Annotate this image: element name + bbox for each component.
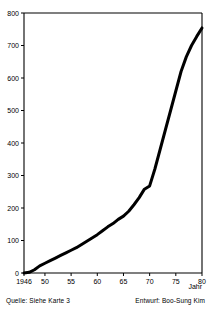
credit-note: Entwurf: Boo-Sung Kim: [135, 297, 205, 304]
y-tick-label: 300: [7, 172, 19, 179]
x-axis-title: Jahr: [188, 283, 202, 290]
y-tick-label: 600: [7, 75, 19, 82]
x-tick-label: 75: [172, 278, 180, 285]
y-tick-label: 500: [7, 107, 19, 114]
x-tick-label: 55: [67, 278, 75, 285]
y-tick-label: 400: [7, 140, 19, 147]
y-tick-label: 200: [7, 205, 19, 212]
y-tick-label: 700: [7, 42, 19, 49]
x-tick-label: 1946: [16, 278, 32, 285]
source-note: Quelle: Siehe Karte 3: [6, 297, 70, 304]
y-axis-tick-labels: 0100200300400500600700800: [7, 10, 19, 277]
x-tick-label: 65: [120, 278, 128, 285]
x-tick-label: 60: [93, 278, 101, 285]
chart-figure: 0100200300400500600700800 19465055606570…: [0, 0, 211, 311]
x-tick-label: 70: [146, 278, 154, 285]
axis-lines: [24, 13, 202, 273]
x-tick-label: 50: [41, 278, 49, 285]
line-chart-canvas: 0100200300400500600700800 19465055606570…: [0, 0, 211, 311]
y-tick-label: 0: [15, 270, 19, 277]
x-axis-tick-labels: 194650556065707580: [16, 278, 206, 285]
y-tick-label: 100: [7, 237, 19, 244]
y-tick-label: 800: [7, 10, 19, 17]
data-series-line: [24, 28, 202, 273]
